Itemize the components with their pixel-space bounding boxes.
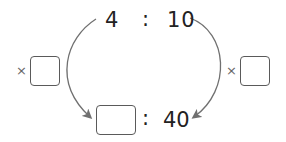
right-multiply-icon: × — [226, 64, 237, 77]
right-arrow — [190, 18, 221, 117]
left-arrow — [67, 19, 96, 117]
bottom-right-term: 40 — [163, 110, 190, 131]
bottom-separator: : — [142, 108, 149, 129]
left-multiplier-input[interactable] — [30, 56, 60, 86]
right-multiplier-input[interactable] — [240, 56, 270, 86]
left-multiply-icon: × — [16, 64, 27, 77]
bottom-left-term-input[interactable] — [96, 105, 136, 135]
top-right-term: 10 — [167, 10, 196, 31]
top-left-term: 4 — [105, 10, 118, 31]
top-separator: : — [142, 9, 149, 30]
